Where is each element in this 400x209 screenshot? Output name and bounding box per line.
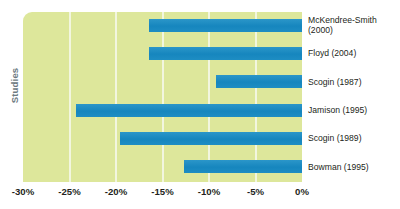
x-tick-label: -15%: [151, 186, 173, 197]
category-labels: McKendree-Smith (2000)Floyd (2004)Scogin…: [308, 12, 400, 182]
x-tick-label: -25%: [58, 186, 80, 197]
x-axis: -30%-25%-20%-15%-10%-5%0%: [0, 186, 400, 204]
category-label: Scogin (1987): [308, 77, 362, 88]
category-label: Scogin (1989): [308, 133, 362, 144]
x-tick-label: -5%: [247, 186, 264, 197]
x-tick-label: -30%: [12, 186, 34, 197]
bar: [149, 19, 302, 32]
category-label: Bowman (1995): [308, 162, 369, 173]
x-tick-label: 0%: [295, 186, 309, 197]
plot-area: [23, 12, 302, 182]
bar: [149, 47, 302, 60]
bar: [76, 104, 302, 117]
bar-chart: Studies McKendree-Smith (2000)Floyd (200…: [0, 0, 400, 209]
category-label: McKendree-Smith (2000): [308, 15, 377, 36]
bars-layer: [23, 12, 302, 182]
category-label: Jamison (1995): [308, 105, 367, 116]
x-tick-label: -10%: [198, 186, 220, 197]
bar: [184, 160, 302, 173]
x-tick-label: -20%: [105, 186, 127, 197]
bar: [216, 75, 302, 88]
category-label: Floyd (2004): [308, 48, 356, 59]
y-axis-title: Studies: [9, 46, 20, 126]
bar: [120, 132, 302, 145]
